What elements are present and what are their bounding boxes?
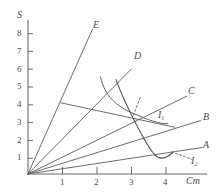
line-E xyxy=(28,29,93,174)
curve-label-B: B xyxy=(203,112,209,122)
y-tick-label-5: 5 xyxy=(17,82,22,91)
origin-rays xyxy=(28,29,202,174)
x-tick-label-4: 4 xyxy=(163,178,168,187)
x-tick-label-2: 2 xyxy=(94,178,99,187)
curve-label-C: C xyxy=(188,86,195,96)
plot-figure: S Cm 8 7 6 5 4 3 2 1 1 2 3 4 E D C B A I… xyxy=(0,0,222,194)
curve-label-D: D xyxy=(134,51,141,61)
x-axis-ticks xyxy=(63,167,167,174)
x-tick-label-1: 1 xyxy=(60,178,65,187)
y-tick-label-1: 1 xyxy=(17,153,22,162)
curve-label-I1: I1 xyxy=(158,110,164,120)
y-tick-label-7: 7 xyxy=(17,47,22,56)
I1-dashed-line xyxy=(134,97,141,116)
curve-label-A: A xyxy=(203,140,209,150)
I2-dashed-line xyxy=(172,152,193,160)
plot-canvas xyxy=(0,0,222,194)
y-tick-label-4: 4 xyxy=(17,100,22,109)
x-axis-title: Cm xyxy=(186,176,200,186)
y-tick-label-6: 6 xyxy=(17,65,22,74)
y-tick-label-3: 3 xyxy=(17,118,22,127)
spinodal-steep-curve xyxy=(116,80,173,159)
x-tick-label-3: 3 xyxy=(129,178,134,187)
y-axis-ticks xyxy=(28,34,33,159)
curve-label-I1-subscript: 1 xyxy=(161,115,164,121)
y-tick-label-2: 2 xyxy=(17,136,22,145)
y-tick-label-8: 8 xyxy=(17,29,22,38)
curve-label-I2-subscript: 2 xyxy=(194,161,197,167)
y-axis-title: S xyxy=(17,10,22,20)
curve-label-I2: I2 xyxy=(191,156,197,166)
curve-label-E: E xyxy=(93,20,99,30)
